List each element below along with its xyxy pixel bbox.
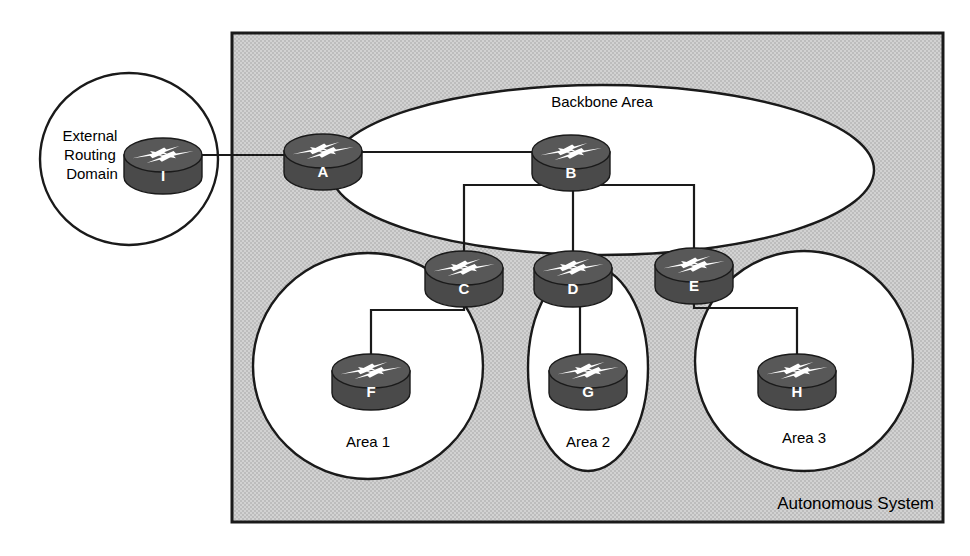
area-1-label: Area 1 bbox=[346, 433, 390, 450]
area-3-label: Area 3 bbox=[782, 429, 826, 446]
router-d[interactable]: D bbox=[534, 251, 612, 307]
router-f[interactable]: F bbox=[332, 354, 410, 410]
router-i-label: I bbox=[161, 167, 165, 184]
ospf-areas-diagram: Autonomous System Backbone Area Area 1 A… bbox=[0, 0, 970, 556]
router-g[interactable]: G bbox=[549, 354, 627, 410]
router-c-label: C bbox=[459, 280, 470, 297]
router-a[interactable]: A bbox=[284, 134, 362, 190]
router-f-label: F bbox=[366, 383, 375, 400]
router-i[interactable]: I bbox=[124, 138, 202, 194]
router-h[interactable]: H bbox=[758, 354, 836, 410]
router-c[interactable]: C bbox=[425, 251, 503, 307]
router-g-label: G bbox=[582, 383, 594, 400]
router-d-label: D bbox=[568, 280, 579, 297]
external-routing-domain-label: External Routing Domain bbox=[62, 127, 121, 182]
area-2-label: Area 2 bbox=[566, 433, 610, 450]
router-b[interactable]: B bbox=[532, 135, 610, 191]
backbone-area-label: Backbone Area bbox=[551, 93, 653, 110]
router-h-label: H bbox=[792, 383, 803, 400]
router-a-label: A bbox=[318, 163, 329, 180]
autonomous-system-label: Autonomous System bbox=[777, 494, 934, 513]
router-e-label: E bbox=[689, 277, 699, 294]
router-e[interactable]: E bbox=[655, 248, 733, 304]
router-b-label: B bbox=[566, 164, 577, 181]
network-diagram-canvas: Autonomous System Backbone Area Area 1 A… bbox=[0, 0, 970, 556]
